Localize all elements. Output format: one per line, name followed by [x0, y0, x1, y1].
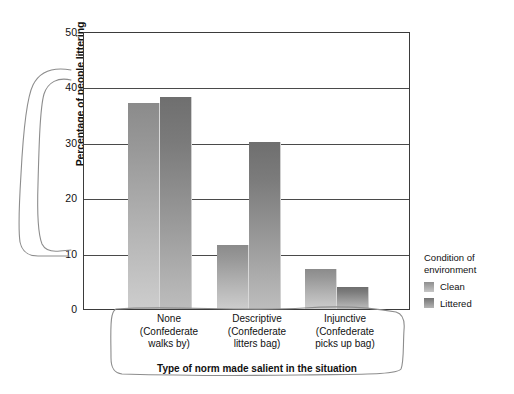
y-tick-label-20: 20	[51, 193, 77, 204]
bar-descriptive-clean	[217, 245, 249, 309]
bar-chart-figure: 50 40 30 20 10 0 Percentage of people li…	[0, 0, 514, 394]
x-category-none-name: None	[124, 313, 214, 326]
x-category-injunctive-sub1: (Confederate	[300, 326, 390, 339]
gridline-40	[84, 88, 409, 89]
legend-title-line1: Condition of	[424, 252, 510, 264]
legend-label-littered: Littered	[440, 298, 472, 310]
x-category-descriptive-name: Descriptive	[212, 313, 302, 326]
bar-injunctive-littered	[337, 287, 369, 309]
x-category-descriptive-sub2: litters bag)	[212, 338, 302, 351]
bar-descriptive-littered	[249, 142, 281, 309]
legend-title: Condition of environment	[424, 252, 510, 275]
y-axis-annotation-loop	[14, 66, 76, 262]
plot-area	[83, 32, 410, 310]
bar-none-clean	[128, 103, 160, 309]
legend-label-clean: Clean	[440, 281, 465, 293]
legend: Condition of environment Clean Littered	[424, 252, 510, 314]
x-category-none-sub1: (Confederate	[124, 326, 214, 339]
legend-swatch-clean-icon	[424, 282, 434, 292]
bar-injunctive-clean	[305, 269, 337, 309]
x-category-descriptive: Descriptive (Confederate litters bag)	[212, 313, 302, 351]
x-axis-title: Type of norm made salient in the situati…	[112, 363, 402, 374]
legend-item-littered: Littered	[424, 298, 510, 310]
x-category-descriptive-sub1: (Confederate	[212, 326, 302, 339]
y-tick-label-10: 10	[51, 249, 77, 260]
x-category-none: None (Confederate walks by)	[124, 313, 214, 351]
x-category-injunctive-name: Injunctive	[300, 313, 390, 326]
y-tick-label-0: 0	[51, 304, 77, 315]
x-category-injunctive: Injunctive (Confederate picks up bag)	[300, 313, 390, 351]
legend-title-line2: environment	[424, 264, 510, 276]
x-category-none-sub2: walks by)	[124, 338, 214, 351]
legend-item-clean: Clean	[424, 281, 510, 293]
x-category-injunctive-sub2: picks up bag)	[300, 338, 390, 351]
legend-swatch-littered-icon	[424, 298, 434, 308]
bar-none-littered	[160, 97, 192, 309]
